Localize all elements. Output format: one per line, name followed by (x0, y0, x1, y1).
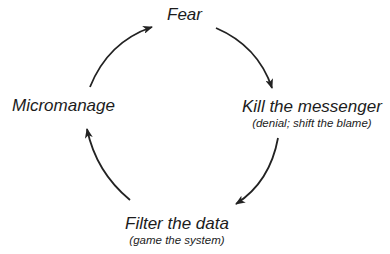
node-kill-title: Kill the messenger (242, 98, 382, 115)
node-kill-subtitle: (denial; shift the blame) (242, 117, 382, 129)
node-micromanage: Micromanage (12, 97, 115, 114)
node-filter-subtitle: (game the system) (125, 234, 229, 246)
arrow-filter-to-micro (87, 129, 130, 200)
node-kill-the-messenger: Kill the messenger (denial; shift the bl… (242, 98, 382, 129)
node-micromanage-title: Micromanage (12, 97, 115, 114)
node-fear-title: Fear (167, 6, 202, 23)
node-filter-title: Filter the data (125, 215, 229, 232)
node-fear: Fear (167, 6, 202, 23)
arrow-fear-to-kill (216, 28, 272, 88)
arrow-kill-to-filter (236, 138, 278, 204)
arrow-micro-to-fear (90, 27, 152, 87)
node-filter-the-data: Filter the data (game the system) (125, 215, 229, 246)
vicious-cycle-diagram: Fear Kill the messenger (denial; shift t… (0, 0, 390, 254)
